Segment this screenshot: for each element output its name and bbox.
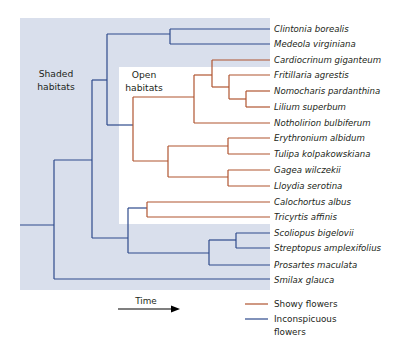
taxon-label: Cardiocrinum giganteum xyxy=(274,55,381,65)
taxon-label: Fritillaria agrestis xyxy=(274,70,349,80)
phylogenetic-tree: Shaded habitats Open habitats xyxy=(0,0,401,348)
taxon-label: Nomocharis pardanthina xyxy=(274,86,380,96)
taxon-label: Scoliopus bigelovii xyxy=(274,228,354,238)
taxon-label: Erythronium albidum xyxy=(274,133,365,143)
taxon-label: Tulipa kolpakowskiana xyxy=(274,149,371,159)
taxon-label: Medeola virginiana xyxy=(274,39,356,49)
taxon-label: Lilium superbum xyxy=(274,102,346,112)
taxon-label: Calochortus albus xyxy=(274,197,351,207)
taxon-label: Tricyrtis affinis xyxy=(274,212,338,222)
legend: Showy flowers Inconspicuous flowers xyxy=(245,299,338,337)
inconspicuous-legend-label: flowers xyxy=(274,327,306,337)
time-label: Time xyxy=(134,296,157,306)
showy-legend-label: Showy flowers xyxy=(274,299,338,309)
shaded-habitats-label: habitats xyxy=(37,81,75,92)
arrowhead-icon xyxy=(171,306,180,313)
taxon-label: Smilax glauca xyxy=(274,275,334,285)
taxon-label: Lloydia serotina xyxy=(274,181,342,191)
taxon-label: Prosartes maculata xyxy=(274,260,357,270)
taxon-label: Streptopus amplexifolius xyxy=(274,243,382,253)
time-axis: Time xyxy=(118,296,180,313)
taxon-label: Gagea wilczekii xyxy=(274,165,341,175)
inconspicuous-legend-label: Inconspicuous xyxy=(274,314,337,324)
taxon-label: Notholirion bulbiferum xyxy=(274,118,371,128)
shaded-habitats-label: Shaded xyxy=(39,68,74,79)
open-habitats-label: Open xyxy=(132,69,157,80)
taxon-labels: Clintonia borealis Medeola virginiana Ca… xyxy=(274,24,382,285)
open-habitats-label: habitats xyxy=(125,82,163,93)
taxon-label: Clintonia borealis xyxy=(274,24,349,34)
